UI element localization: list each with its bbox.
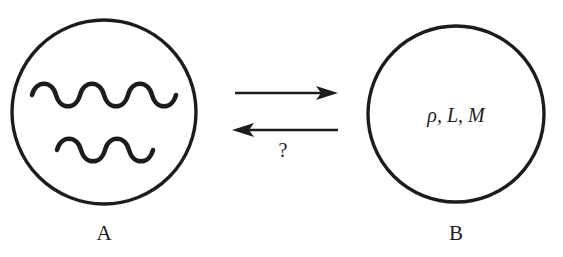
node-a-circle [12,20,196,204]
diagram-canvas: A ? ρ, L, M B [0,0,563,257]
reverse-arrow-question-label: ? [279,139,288,161]
node-a-wave-lower [57,139,153,162]
forward-arrow [235,86,338,100]
node-b-group: ρ, L, M B [368,26,544,245]
node-a-group: A [12,20,196,245]
node-a-label: A [96,221,112,245]
node-b-contents-label: ρ, L, M [426,104,486,127]
reverse-arrow: ? [232,123,338,161]
node-a-wave-upper [32,84,176,107]
arrows-group: ? [232,86,338,161]
diagram-svg: A ? ρ, L, M B [0,0,563,257]
node-b-label: B [449,221,463,245]
